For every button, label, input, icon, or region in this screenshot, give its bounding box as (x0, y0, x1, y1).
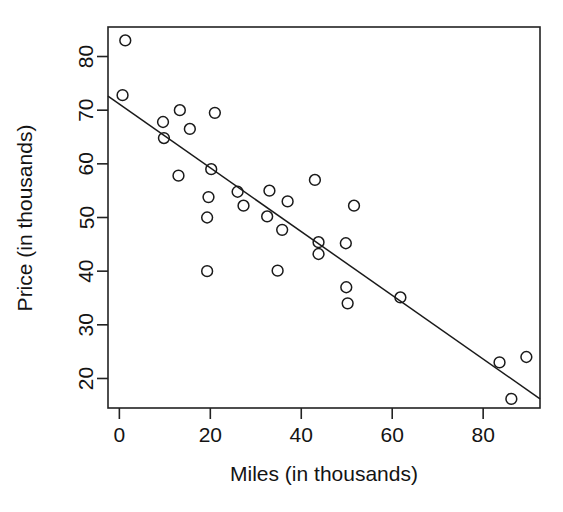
x-tick-label: 60 (381, 423, 404, 446)
y-tick-label: 70 (75, 98, 98, 121)
data-point (238, 200, 249, 211)
y-axis-title: Price (in thousands) (13, 125, 36, 312)
data-point (158, 117, 169, 128)
data-point (184, 124, 195, 135)
y-tick-label: 40 (75, 259, 98, 282)
data-point (203, 192, 214, 203)
data-point (232, 186, 243, 197)
data-point (262, 211, 273, 222)
data-point (282, 196, 293, 207)
x-tick-label: 20 (199, 423, 222, 446)
x-axis-tick-labels: 020406080 (114, 423, 495, 446)
regression-line (108, 96, 540, 399)
data-point (340, 238, 351, 249)
data-point (117, 90, 128, 101)
y-tick-label: 20 (75, 367, 98, 390)
data-point (202, 266, 213, 277)
data-point (313, 237, 324, 248)
data-point (209, 107, 220, 118)
regression-line-segment (108, 96, 540, 399)
data-point (277, 224, 288, 235)
data-point (341, 282, 352, 293)
scatter-plot-figure: 020406080 20304050607080 Miles (in thous… (0, 0, 563, 512)
y-tick-label: 60 (75, 152, 98, 175)
data-point (342, 298, 353, 309)
x-axis-title: Miles (in thousands) (230, 462, 418, 485)
x-tick-label: 0 (114, 423, 126, 446)
x-tick-label: 40 (290, 423, 313, 446)
data-point (310, 175, 321, 186)
data-point (120, 35, 131, 46)
plot-canvas: 020406080 20304050607080 Miles (in thous… (0, 0, 563, 512)
data-point (349, 200, 360, 211)
y-tick-label: 50 (75, 206, 98, 229)
data-point (494, 357, 505, 368)
x-axis-ticks (119, 408, 483, 419)
data-point (173, 170, 184, 181)
data-point (202, 212, 213, 223)
y-tick-label: 80 (75, 45, 98, 68)
data-point (506, 393, 517, 404)
data-point (264, 185, 275, 196)
x-tick-label: 80 (471, 423, 494, 446)
y-tick-label: 30 (75, 313, 98, 336)
data-point (272, 265, 283, 276)
data-point (313, 249, 324, 260)
plot-frame (108, 27, 540, 408)
data-point (174, 105, 185, 116)
y-axis-tick-labels: 20304050607080 (75, 45, 98, 390)
data-point (521, 352, 532, 363)
y-axis-ticks (97, 57, 108, 379)
